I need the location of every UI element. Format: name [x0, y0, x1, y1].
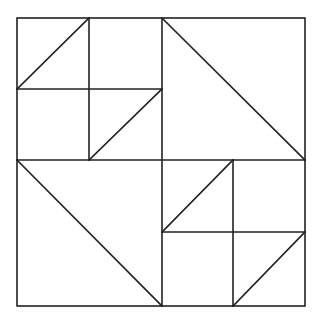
top-left-diagonal-lower: [89, 89, 162, 160]
bottom-right-diagonal-upper: [162, 160, 233, 232]
bottom-right-diagonal-lower: [233, 232, 305, 306]
quadrant-bottom-left: [17, 160, 162, 306]
tiling-diagram: [0, 0, 322, 324]
quadrant-top-right: [162, 18, 305, 160]
quadrant-top-left: [17, 18, 162, 160]
top-right-diagonal: [162, 18, 305, 160]
outer-square: [17, 18, 305, 306]
bottom-left-diagonal: [17, 160, 162, 306]
top-left-diagonal-upper: [17, 18, 89, 89]
quadrant-bottom-right: [162, 160, 305, 306]
diagram-canvas: [0, 0, 322, 324]
